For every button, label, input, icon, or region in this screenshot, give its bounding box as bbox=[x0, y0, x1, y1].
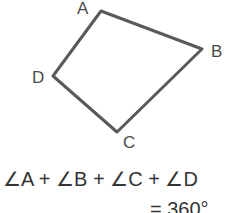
quadrilateral-abcd bbox=[53, 11, 202, 132]
vertex-label-b: B bbox=[211, 43, 222, 60]
equation-line-2: = 360° bbox=[150, 199, 209, 213]
vertex-label-a: A bbox=[77, 0, 88, 17]
equation-line-1: ∠A + ∠B + ∠C + ∠D bbox=[3, 169, 198, 189]
vertex-label-c: C bbox=[123, 134, 135, 151]
vertex-label-d: D bbox=[32, 69, 44, 86]
